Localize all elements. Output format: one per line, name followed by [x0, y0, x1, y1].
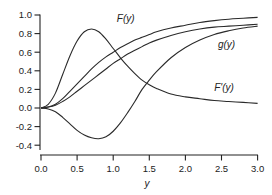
y-tick-label: 0.8 [19, 28, 32, 39]
x-tick-label: 2.5 [215, 163, 228, 174]
y-tick-label: 0.6 [19, 47, 32, 58]
x-tick-label: 1.0 [107, 163, 120, 174]
x-axis-title: y [144, 178, 151, 189]
x-tick-label: 0.0 [34, 163, 47, 174]
curve-label-f-y: F(y) [117, 13, 135, 24]
y-tick-label: 0.4 [19, 65, 32, 76]
y-tick-label: -0.2 [16, 121, 32, 132]
curves [41, 17, 258, 138]
x-axis: 0.00.51.01.52.02.53.0 [34, 155, 264, 174]
y-tick-label: 1.0 [19, 9, 32, 20]
y-axis: 1.00.80.60.40.20.0-0.2-0.4 [16, 9, 40, 150]
y-tick-label: 0.0 [19, 102, 32, 113]
x-tick-label: 2.0 [179, 163, 192, 174]
curve-label-f-y: F'(y) [214, 82, 234, 93]
x-tick-label: 1.5 [143, 163, 156, 174]
curve-label-g-y: g(y) [218, 39, 235, 50]
x-tick-label: 3.0 [251, 163, 264, 174]
chart: 1.00.80.60.40.20.0-0.2-0.4 0.00.51.01.52… [0, 0, 272, 195]
curve-labels: F(y)g(y)F'(y) [117, 13, 235, 94]
y-tick-label: 0.2 [19, 84, 32, 95]
y-tick-label: -0.4 [16, 140, 32, 151]
curve-g-y [41, 24, 258, 108]
x-tick-label: 0.5 [70, 163, 83, 174]
